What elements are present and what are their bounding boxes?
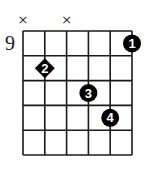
- muted-string-x-icon: ×: [18, 12, 29, 27]
- fretboard-grid: [23, 31, 132, 155]
- finger-number: 1: [128, 36, 135, 51]
- muted-string-x-icon: ×: [61, 12, 72, 27]
- finger-dot-3: 3: [79, 84, 97, 102]
- finger-number: 4: [107, 110, 115, 125]
- chord-diagram: 9 ×× 1234: [0, 0, 149, 169]
- start-fret-label: 9: [5, 32, 15, 54]
- finger-number: 3: [85, 86, 92, 101]
- muted-string-markers: ××: [18, 12, 73, 27]
- finger-dot-2: 2: [35, 58, 55, 78]
- finger-number: 2: [41, 61, 48, 76]
- finger-dot-1: 1: [123, 34, 141, 52]
- finger-dot-4: 4: [101, 109, 119, 127]
